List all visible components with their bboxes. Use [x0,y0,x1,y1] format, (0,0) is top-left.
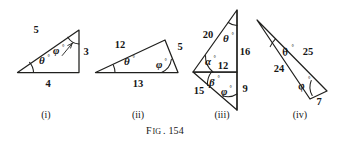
triangle-i-side-base-label: 4 [45,78,51,89]
triangle-iv-side-7-label: 7 [316,96,321,107]
svg-text:°: ° [165,58,168,64]
triangle-iii-theta-label: θ ° [223,32,235,45]
svg-text:φ: φ [156,58,163,70]
svg-text:°: ° [133,55,136,61]
panel-iii: 20 16 12 15 9 θ ° α ° β ° φ ° (iii) [193,10,250,121]
panel-ii-roman-label: (ii) [132,109,144,121]
figure-154-diagram: 5 3 4 θ ° φ ° (i) 12 5 13 θ ° φ ° (ii) [0,0,340,141]
svg-text:φ: φ [53,44,60,56]
svg-text:°: ° [232,32,235,38]
triangle-iii-beta-label: β ° [208,75,221,89]
svg-text:°: ° [218,75,221,81]
triangle-iii-side-12-label: 12 [218,60,229,71]
panel-i: 5 3 4 θ ° φ ° (i) [18,24,89,121]
panel-ii: 12 5 13 θ ° φ ° (ii) [96,39,183,121]
svg-text:θ: θ [223,32,229,44]
panel-i-roman-label: (i) [41,109,50,121]
triangle-iii-side-9-label: 9 [242,83,247,94]
triangle-i-side-hypotenuse-label: 5 [33,24,38,35]
svg-text:θ: θ [124,55,130,67]
svg-text:β: β [208,76,215,88]
figure-caption: F IG . 154 [146,125,184,136]
svg-text:°: ° [230,85,233,91]
triangle-ii-side-upper-label: 12 [115,39,126,50]
svg-text:φ: φ [297,79,307,92]
panel-iv: 25 24 7 θ ° φ ° (iv) [257,20,327,121]
figure-caption-prefix: F [146,125,152,136]
svg-text:°: ° [48,54,51,60]
triangle-ii-side-right-label: 5 [177,41,182,52]
triangle-ii-outline [96,40,179,73]
triangle-iv-side-25-label: 25 [303,46,314,57]
figure-caption-number: . 154 [163,125,184,136]
triangle-iv-phi-arc [310,81,312,96]
triangle-iii-side-15-label: 15 [194,85,205,96]
figure-caption-prefix-smallcaps: IG [153,127,162,136]
triangle-iii-phi-label: φ ° [221,85,233,98]
svg-text:α: α [205,55,212,67]
panel-iv-roman-label: (iv) [293,109,307,121]
triangle-i-phi-arc [68,37,79,44]
triangle-iv-phi-label: φ ° [297,76,311,92]
svg-text:°: ° [214,55,217,61]
svg-text:θ: θ [39,54,45,66]
svg-text:φ: φ [221,85,228,97]
triangle-i-outline [18,30,80,73]
triangle-iii-theta-arc [228,23,237,26]
triangle-ii-side-base-label: 13 [133,78,144,89]
svg-text:°: ° [62,44,65,50]
figure-container: 5 3 4 θ ° φ ° (i) 12 5 13 θ ° φ ° (ii) [0,0,340,141]
svg-text:°: ° [292,44,295,50]
triangle-iv-outline [257,20,327,99]
triangle-iii-side-16-label: 16 [240,46,251,57]
triangle-iii-alpha-label: α ° [205,55,217,68]
triangle-ii-theta-arc [113,65,115,73]
triangle-ii-phi-label: φ ° [156,58,168,71]
triangle-iii-side-20-label: 20 [203,29,214,40]
triangle-i-side-vertical-label: 3 [83,46,88,57]
triangle-i-theta-label: θ ° [39,54,51,67]
panel-iii-roman-label: (iii) [215,109,230,121]
triangle-i-theta-arc [30,62,34,72]
triangle-iii-upper-outline [193,10,237,72]
triangle-iv-side-24-label: 24 [274,63,285,74]
